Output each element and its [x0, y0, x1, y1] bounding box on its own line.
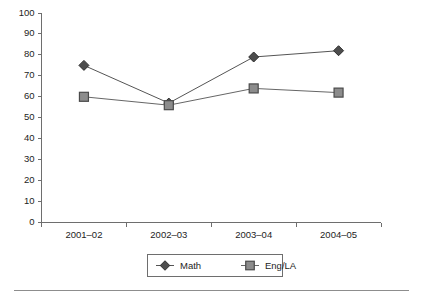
- y-axis-tick-labels: 0102030405060708090100: [19, 7, 35, 228]
- y-axis-group: 0102030405060708090100: [19, 7, 42, 228]
- series-line: [84, 51, 339, 103]
- x-axis-tick-labels: 2001–022002–032003–042004–05: [65, 229, 357, 240]
- legend: MathEng/LA: [148, 255, 297, 277]
- y-axis-tick-label: 10: [24, 195, 35, 206]
- y-axis-tick-label: 50: [24, 111, 35, 122]
- chart-canvas: 0102030405060708090100 2001–022002–03200…: [0, 0, 423, 300]
- y-axis-tick-marks: [38, 13, 42, 223]
- x-axis-tick-marks: [42, 223, 382, 227]
- square-marker-point: [79, 92, 88, 101]
- legend-item-eng-la: Eng/LA: [241, 260, 297, 271]
- y-axis-tick-label: 40: [24, 132, 35, 143]
- data-series-layer: [79, 46, 344, 110]
- diamond-marker-point: [334, 46, 344, 56]
- legend-label: Math: [180, 260, 201, 271]
- x-axis-tick-label: 2003–04: [235, 229, 272, 240]
- square-marker-point: [334, 88, 343, 97]
- y-axis-tick-label: 100: [19, 7, 35, 18]
- y-axis-tick-label: 30: [24, 153, 35, 164]
- y-axis-tick-label: 90: [24, 27, 35, 38]
- y-axis-tick-label: 0: [29, 216, 34, 227]
- diamond-marker-point: [249, 52, 259, 62]
- y-axis-tick-label: 60: [24, 90, 35, 101]
- series-math: [79, 46, 344, 108]
- square-marker-point: [164, 101, 173, 110]
- diamond-marker-point: [79, 60, 89, 70]
- square-marker: [246, 261, 255, 270]
- legend-label: Eng/LA: [265, 260, 297, 271]
- square-marker-point: [249, 84, 258, 93]
- x-axis-group: 2001–022002–032003–042004–05: [42, 223, 382, 240]
- x-axis-tick-label: 2001–02: [65, 229, 102, 240]
- series-eng-la: [79, 84, 343, 110]
- line-chart-figure: 0102030405060708090100 2001–022002–03200…: [0, 0, 423, 300]
- y-axis-tick-label: 70: [24, 69, 35, 80]
- y-axis-tick-label: 80: [24, 48, 35, 59]
- x-axis-tick-label: 2002–03: [150, 229, 187, 240]
- x-axis-tick-label: 2004–05: [320, 229, 357, 240]
- y-axis-tick-label: 20: [24, 174, 35, 185]
- series-line: [84, 88, 339, 105]
